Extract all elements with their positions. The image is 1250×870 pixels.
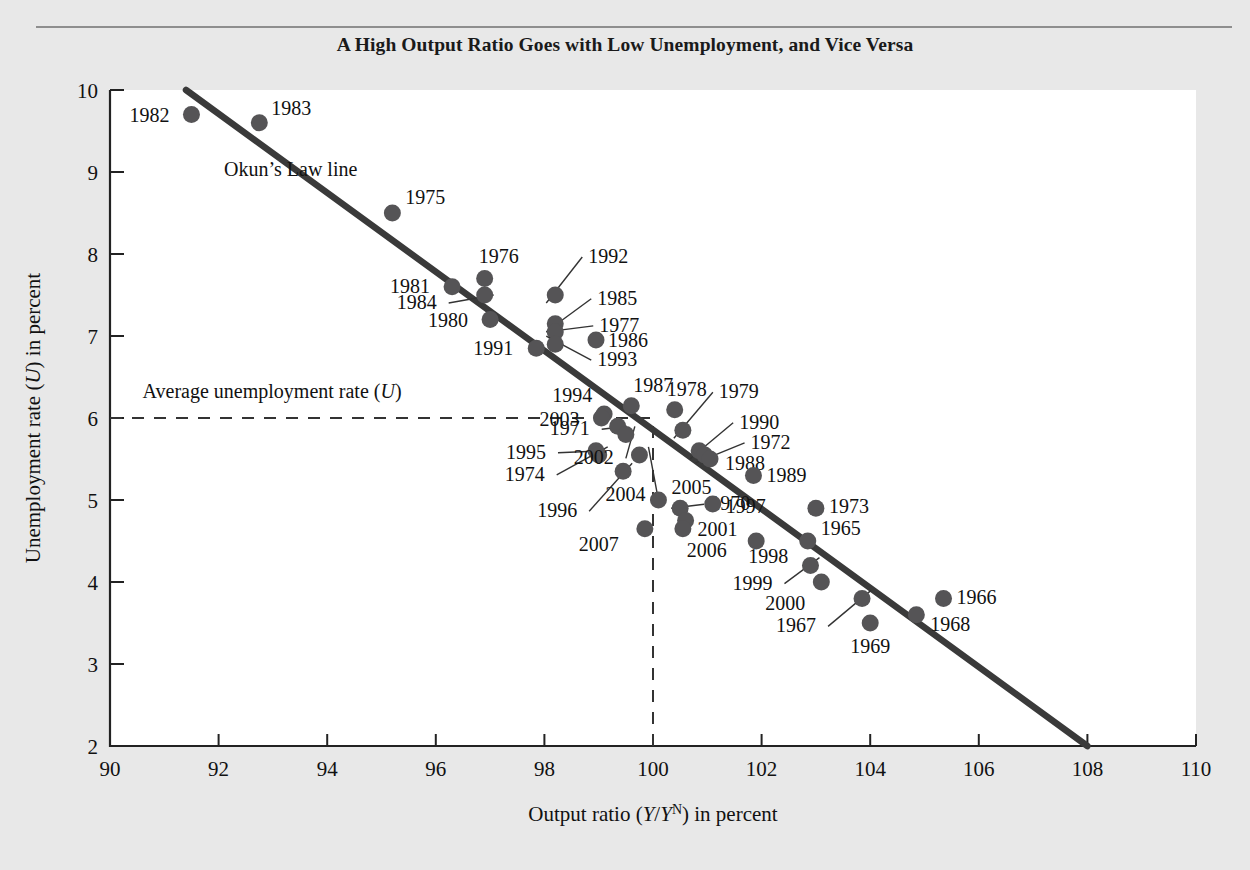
y-tick-label: 10 xyxy=(77,79,98,103)
y-tick-label: 2 xyxy=(88,735,99,759)
data-point-label-1983: 1983 xyxy=(271,97,311,119)
data-point-1982[interactable] xyxy=(183,106,200,123)
y-tick-label: 8 xyxy=(88,243,99,267)
data-point-label-1973: 1973 xyxy=(829,495,869,517)
data-point-2006[interactable] xyxy=(674,520,691,537)
data-point-label-1966: 1966 xyxy=(957,586,997,608)
x-axis-label: Output ratio (Y/YN) in percent xyxy=(528,802,777,827)
data-point-2005[interactable] xyxy=(650,492,667,509)
data-point-1991[interactable] xyxy=(528,340,545,357)
data-point-label-1992: 1992 xyxy=(588,245,628,267)
data-point-label-1974: 1974 xyxy=(505,463,545,485)
data-point-2007[interactable] xyxy=(636,520,653,537)
x-tick-label: 98 xyxy=(534,757,555,781)
figure-page: A High Output Ratio Goes with Low Unempl… xyxy=(0,0,1250,870)
data-point-1999[interactable] xyxy=(802,557,819,574)
data-point-1978[interactable] xyxy=(666,401,683,418)
data-point-label-1989: 1989 xyxy=(766,464,806,486)
y-tick-label: 4 xyxy=(88,571,99,595)
data-point-label-1982: 1982 xyxy=(129,104,169,126)
scatter-chart: 90929496981001021041061081102345678910Ok… xyxy=(0,0,1250,870)
data-point-label-1968: 1968 xyxy=(930,613,970,635)
x-tick-label: 102 xyxy=(746,757,778,781)
y-tick-label: 3 xyxy=(88,653,99,677)
data-point-label-1991: 1991 xyxy=(473,337,513,359)
data-point-1997[interactable] xyxy=(704,496,721,513)
y-tick-label: 9 xyxy=(88,161,99,185)
data-point-2003[interactable] xyxy=(593,410,610,427)
data-point-label-1995: 1995 xyxy=(506,441,546,463)
data-point-1989[interactable] xyxy=(745,467,762,484)
y-tick-label: 6 xyxy=(88,407,99,431)
data-point-label-1969: 1969 xyxy=(850,635,890,657)
data-point-1965[interactable] xyxy=(799,533,816,550)
data-point-label-1965: 1965 xyxy=(821,517,861,539)
data-point-1968[interactable] xyxy=(908,606,925,623)
data-point-label-1972: 1972 xyxy=(751,431,791,453)
y-tick-label: 7 xyxy=(88,325,99,349)
data-point-1966[interactable] xyxy=(935,590,952,607)
data-point-label-1990: 1990 xyxy=(739,411,779,433)
data-point-label-1978: 1978 xyxy=(667,378,707,400)
data-point-1975[interactable] xyxy=(384,205,401,222)
data-point-1996[interactable] xyxy=(615,463,632,480)
data-point-1984[interactable] xyxy=(476,287,493,304)
average-unemployment-label: Average unemployment rate (U) xyxy=(143,380,402,403)
x-tick-label: 90 xyxy=(100,757,121,781)
data-point-1969[interactable] xyxy=(862,615,879,632)
x-tick-label: 106 xyxy=(963,757,995,781)
data-point-label-1976: 1976 xyxy=(479,245,519,267)
y-axis-label: Unemployment rate (U) in percent xyxy=(21,273,45,564)
data-point-1986[interactable] xyxy=(587,332,604,349)
data-point-label-1996: 1996 xyxy=(537,499,577,521)
data-point-1983[interactable] xyxy=(251,114,268,131)
data-point-label-1980: 1980 xyxy=(428,309,468,331)
x-tick-label: 104 xyxy=(854,757,886,781)
data-point-label-2001: 2001 xyxy=(698,518,738,540)
data-point-label-1999: 1999 xyxy=(732,572,772,594)
data-point-label-1993: 1993 xyxy=(597,348,637,370)
data-point-2004[interactable] xyxy=(631,446,648,463)
data-point-1967[interactable] xyxy=(854,590,871,607)
data-point-1973[interactable] xyxy=(807,500,824,517)
data-point-1988[interactable] xyxy=(702,451,719,468)
data-point-label-1971: 1971 xyxy=(550,417,590,439)
data-point-label-2007: 2007 xyxy=(579,533,619,555)
data-point-label-1979: 1979 xyxy=(719,380,759,402)
data-point-label-2004: 2004 xyxy=(605,483,645,505)
okun-law-line-label: Okun’s Law line xyxy=(224,158,357,180)
data-point-1979[interactable] xyxy=(674,422,691,439)
data-point-label-1975: 1975 xyxy=(405,186,445,208)
data-point-label-1998: 1998 xyxy=(748,545,788,567)
data-point-label-1967: 1967 xyxy=(776,614,816,636)
data-point-1993[interactable] xyxy=(547,336,564,353)
data-point-1980[interactable] xyxy=(482,311,499,328)
x-tick-label: 92 xyxy=(208,757,229,781)
data-point-2000[interactable] xyxy=(813,574,830,591)
data-point-label-2006: 2006 xyxy=(687,539,727,561)
data-point-label-1997: 1997 xyxy=(726,495,766,517)
data-point-2002[interactable] xyxy=(617,426,634,443)
x-tick-label: 94 xyxy=(317,757,339,781)
x-tick-label: 110 xyxy=(1181,757,1212,781)
data-point-label-2005: 2005 xyxy=(671,476,711,498)
data-point-1976[interactable] xyxy=(476,270,493,287)
data-point-1992[interactable] xyxy=(547,287,564,304)
x-tick-label: 96 xyxy=(425,757,446,781)
x-tick-label: 100 xyxy=(637,757,669,781)
data-point-label-2002: 2002 xyxy=(574,446,614,468)
data-point-label-2000: 2000 xyxy=(765,592,805,614)
y-tick-label: 5 xyxy=(88,489,99,513)
data-point-label-1985: 1985 xyxy=(597,287,637,309)
x-tick-label: 108 xyxy=(1072,757,1104,781)
data-point-label-1994: 1994 xyxy=(552,384,592,406)
data-point-1987[interactable] xyxy=(623,397,640,414)
data-point-1981[interactable] xyxy=(444,278,461,295)
